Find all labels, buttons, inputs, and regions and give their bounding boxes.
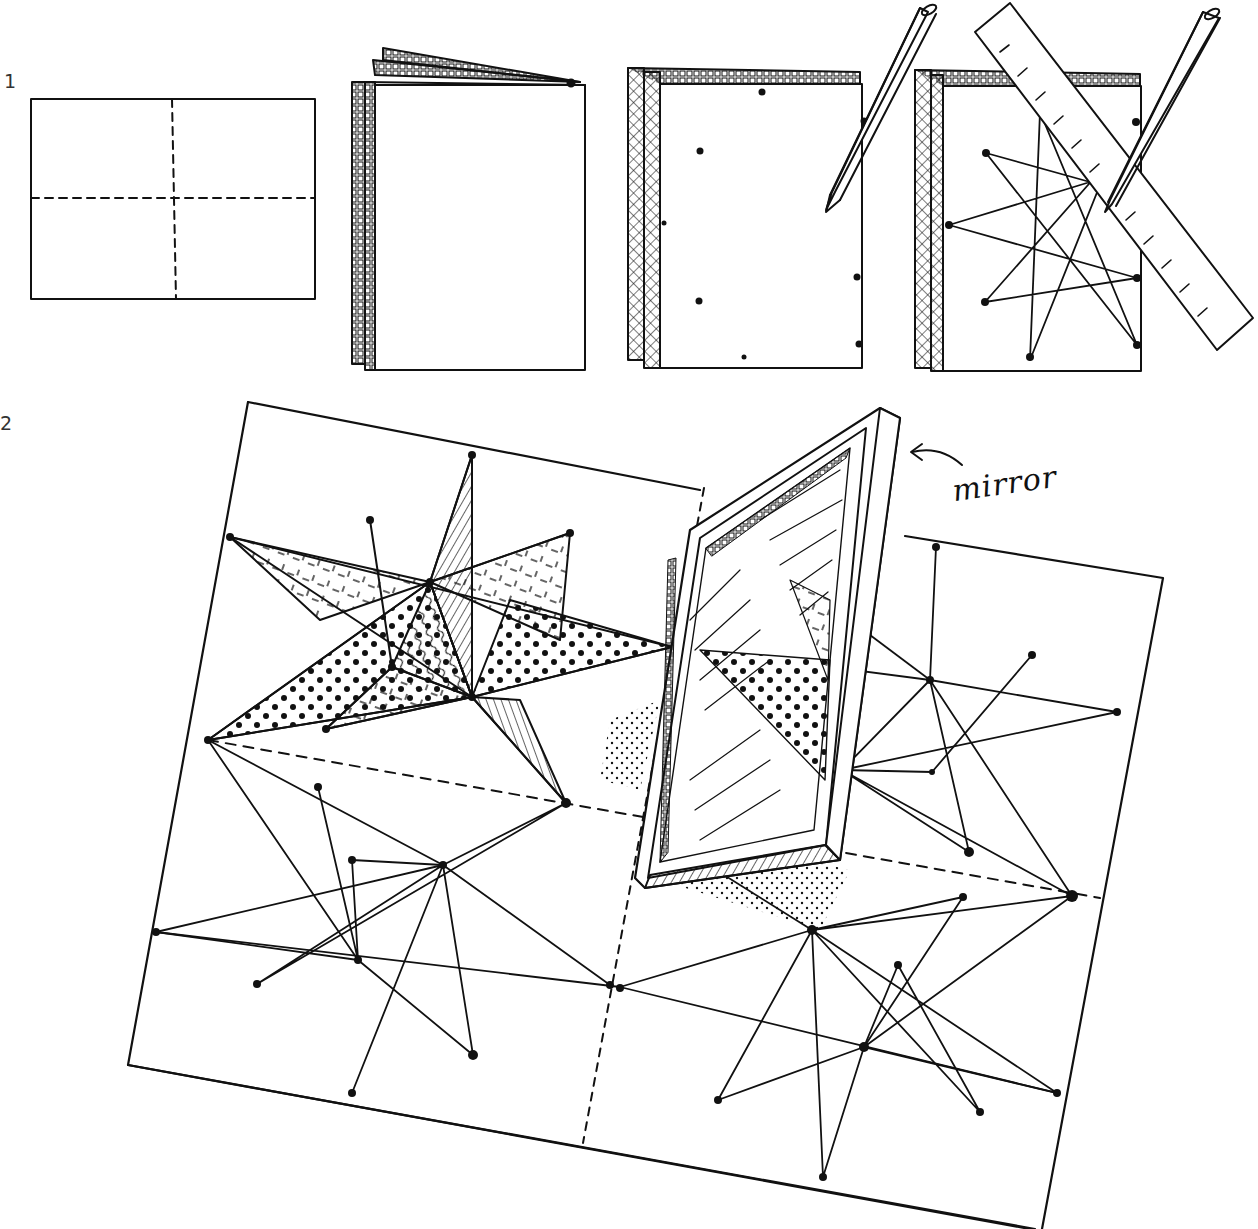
shaded-star [208, 455, 672, 803]
mirror-arrow-icon [911, 444, 962, 465]
illustration [0, 0, 1258, 1229]
star-right-bottom [620, 860, 1072, 1177]
folded-booklet-panel [352, 48, 585, 370]
diagram-canvas: 1 2 mirror [0, 0, 1258, 1229]
star-bottom-left [156, 740, 620, 1093]
flat-sheet-panel [31, 99, 315, 299]
marked-booklet-panel [628, 3, 938, 368]
star-booklet-panel [915, 3, 1253, 371]
mirror-object [635, 408, 900, 888]
